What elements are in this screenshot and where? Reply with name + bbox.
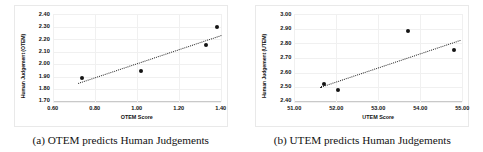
figure-row: Human Judgement (OTEM) 2.402.302.202.102… — [0, 0, 483, 152]
gridline-vertical — [378, 14, 379, 102]
caption-a: (a) OTEM predicts Human Judgements — [33, 134, 209, 146]
y-tick-label: 2.50 — [269, 84, 291, 90]
x-tick-label: 51.00 — [287, 105, 301, 111]
x-tick-label: 1.20 — [173, 105, 184, 111]
caption-b: (b) UTEM predicts Human Judgements — [274, 134, 451, 146]
y-tick-label: 1.70 — [28, 98, 50, 104]
data-point — [80, 76, 84, 80]
subfigure-a: Human Judgement (OTEM) 2.402.302.202.102… — [0, 0, 242, 152]
data-point — [406, 29, 410, 33]
trendline — [320, 40, 460, 88]
y-tick-label: 2.20 — [28, 37, 50, 43]
gridline-vertical — [462, 14, 463, 102]
y-tick-label: 2.30 — [28, 24, 50, 30]
y-tick-label: 2.40 — [269, 98, 291, 104]
x-tick-label: 0.80 — [89, 105, 100, 111]
y-tick-label: 1.80 — [28, 86, 50, 92]
plot-area-b — [294, 14, 462, 102]
x-axis-ticks-a: 0.600.801.001.201.40 — [53, 105, 221, 113]
y-tick-label: 2.90 — [269, 26, 291, 32]
x-tick-label: 53.00 — [371, 105, 385, 111]
gridline-vertical — [179, 14, 180, 102]
x-tick-label: 1.40 — [215, 105, 226, 111]
x-axis-ticks-b: 51.0052.0053.0054.0055.00 — [294, 105, 462, 113]
gridline-vertical — [137, 14, 138, 102]
x-tick-label: 0.60 — [47, 105, 58, 111]
subfigure-b: Human Judgement (UTEM) 3.002.902.802.702… — [242, 0, 483, 152]
y-tick-label: 2.00 — [28, 61, 50, 67]
data-point — [139, 69, 143, 73]
data-point — [336, 88, 340, 92]
data-point — [215, 25, 219, 29]
y-axis-title-label-b: Human Judgement (UTEM) — [261, 34, 267, 98]
gridline-vertical — [294, 14, 295, 102]
x-tick-label: 52.00 — [329, 105, 343, 111]
plot-area-a — [53, 14, 221, 102]
y-tick-label: 1.90 — [28, 74, 50, 80]
chart-b: Human Judgement (UTEM) 3.002.902.802.702… — [255, 5, 469, 127]
y-tick-label: 2.60 — [269, 70, 291, 76]
gridline-vertical — [420, 14, 421, 102]
x-axis-title-b: UTEM Score — [294, 114, 462, 120]
gridline-horizontal — [294, 102, 462, 103]
data-point — [452, 48, 456, 52]
gridline-vertical — [53, 14, 54, 102]
y-axis-title-label-a: Human Judgement (OTEM) — [20, 34, 26, 98]
y-tick-label: 2.70 — [269, 55, 291, 61]
y-tick-label: 2.40 — [28, 12, 50, 18]
y-axis-ticks-a: 2.402.302.202.102.001.901.801.70 — [28, 12, 50, 104]
data-point — [204, 43, 208, 47]
chart-a: Human Judgement (OTEM) 2.402.302.202.102… — [14, 5, 228, 127]
gridline-vertical — [221, 14, 222, 102]
x-tick-label: 55.00 — [455, 105, 469, 111]
y-tick-label: 2.10 — [28, 49, 50, 55]
x-tick-label: 54.00 — [413, 105, 427, 111]
y-axis-ticks-b: 3.002.902.802.702.602.502.40 — [269, 12, 291, 104]
y-tick-label: 3.00 — [269, 12, 291, 18]
x-tick-label: 1.00 — [131, 105, 142, 111]
gridline-vertical — [95, 14, 96, 102]
gridline-horizontal — [53, 102, 221, 103]
y-tick-label: 2.80 — [269, 41, 291, 47]
x-axis-title-a: OTEM Score — [53, 114, 221, 120]
